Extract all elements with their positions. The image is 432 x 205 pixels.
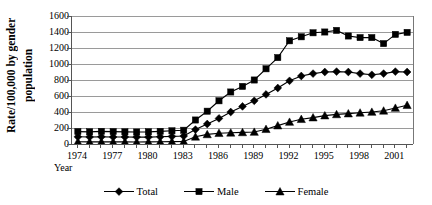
plot-right-border bbox=[413, 16, 414, 144]
x-axis-tick-mark bbox=[183, 145, 184, 148]
data-point bbox=[345, 33, 351, 39]
data-point bbox=[297, 72, 305, 80]
y-axis-tick-label: 1200 bbox=[39, 43, 69, 53]
series-line bbox=[78, 30, 407, 132]
y-axis-tick-mark bbox=[67, 112, 71, 113]
x-axis-tick-label: 1977 bbox=[92, 150, 132, 161]
x-axis-tick-mark bbox=[230, 145, 231, 148]
series-canvas bbox=[72, 16, 413, 144]
data-point bbox=[109, 138, 117, 144]
legend-item-total[interactable]: Total bbox=[104, 186, 158, 197]
data-point bbox=[357, 35, 363, 41]
data-point bbox=[110, 129, 116, 135]
data-point bbox=[344, 68, 352, 76]
data-point bbox=[215, 115, 223, 123]
x-axis-tick-mark bbox=[289, 145, 290, 148]
diamond-marker-icon bbox=[104, 186, 134, 197]
x-axis-tick-mark bbox=[336, 145, 337, 148]
y-axis-tick-label: 1600 bbox=[39, 11, 69, 21]
legend-label: Male bbox=[217, 186, 239, 197]
data-point bbox=[310, 30, 316, 36]
x-axis-tick-label: 1986 bbox=[198, 150, 238, 161]
data-point bbox=[121, 138, 129, 144]
y-axis-tick-label: 800 bbox=[39, 75, 69, 85]
y-axis-tick-mark bbox=[67, 80, 71, 81]
y-axis-title-line-2: population bbox=[19, 0, 37, 150]
y-axis-tick-mark bbox=[67, 144, 71, 145]
legend-item-female[interactable]: Female bbox=[265, 186, 329, 197]
x-axis-tick-mark bbox=[136, 145, 137, 148]
legend-item-male[interactable]: Male bbox=[184, 186, 239, 197]
data-point bbox=[169, 128, 175, 134]
y-axis-tick-mark bbox=[67, 32, 71, 33]
data-point bbox=[228, 89, 234, 95]
y-axis-tick-label: 200 bbox=[39, 123, 69, 133]
data-point bbox=[75, 129, 81, 135]
data-point bbox=[391, 68, 399, 76]
data-point bbox=[321, 68, 329, 76]
x-axis-tick-label: 1983 bbox=[163, 150, 203, 161]
data-point bbox=[134, 129, 140, 135]
x-axis-tick-mark bbox=[77, 145, 78, 148]
data-point bbox=[322, 29, 328, 35]
x-axis-tick-label: 1989 bbox=[233, 150, 273, 161]
data-point bbox=[369, 35, 375, 41]
data-point bbox=[122, 129, 128, 135]
x-axis-tick-mark bbox=[253, 145, 254, 148]
x-axis-tick-mark bbox=[265, 145, 266, 148]
y-axis-tick-label: 0 bbox=[39, 139, 69, 149]
y-axis-tick-mark bbox=[67, 96, 71, 97]
data-point bbox=[144, 138, 152, 144]
legend-label: Total bbox=[137, 186, 158, 197]
data-point bbox=[250, 97, 258, 105]
x-axis-tick-mark bbox=[347, 145, 348, 148]
data-point bbox=[404, 29, 410, 35]
data-point bbox=[356, 70, 364, 78]
data-point bbox=[298, 34, 304, 40]
data-point bbox=[274, 84, 282, 92]
data-point bbox=[262, 91, 270, 99]
data-point bbox=[403, 68, 411, 76]
data-point bbox=[181, 127, 187, 133]
x-axis-tick-label: 1998 bbox=[339, 150, 379, 161]
data-point bbox=[275, 55, 281, 61]
y-axis-tick-mark bbox=[67, 128, 71, 129]
x-axis-tick-mark bbox=[147, 145, 148, 148]
y-axis-tick-mark bbox=[67, 48, 71, 49]
x-axis-tick-label: 1995 bbox=[304, 150, 344, 161]
data-point bbox=[216, 98, 222, 104]
x-axis-tick-label: 2001 bbox=[374, 150, 414, 161]
y-axis-tick-label: 400 bbox=[39, 107, 69, 117]
x-axis-title: Year bbox=[54, 162, 72, 173]
y-axis-tick-mark bbox=[67, 64, 71, 65]
data-point bbox=[98, 128, 104, 134]
x-axis-tick-mark bbox=[89, 145, 90, 148]
data-point bbox=[157, 128, 163, 134]
x-axis-tick-mark bbox=[312, 145, 313, 148]
x-axis-tick-mark bbox=[218, 145, 219, 148]
series-male bbox=[75, 27, 410, 135]
data-point bbox=[333, 27, 339, 33]
data-point bbox=[381, 41, 387, 47]
x-axis-tick-mark bbox=[383, 145, 384, 148]
x-axis-tick-mark bbox=[359, 145, 360, 148]
y-axis-tick-label: 600 bbox=[39, 91, 69, 101]
y-axis-title-line-1: Rate/100,000 by gender bbox=[2, 0, 20, 150]
x-axis-tick-mark bbox=[194, 145, 195, 148]
x-axis-tick-mark bbox=[206, 145, 207, 148]
data-point bbox=[203, 120, 211, 128]
x-axis-tick-mark bbox=[394, 145, 395, 148]
legend-label: Female bbox=[298, 186, 329, 197]
data-point bbox=[239, 103, 247, 111]
data-point bbox=[204, 108, 210, 114]
x-axis-tick-label: 1980 bbox=[127, 150, 167, 161]
x-axis-tick-mark bbox=[242, 145, 243, 148]
data-point bbox=[333, 68, 341, 76]
data-point bbox=[86, 138, 94, 144]
data-point bbox=[263, 66, 269, 72]
data-point bbox=[239, 83, 245, 89]
data-point bbox=[368, 71, 376, 79]
x-axis-tick-label: 1992 bbox=[269, 150, 309, 161]
data-point bbox=[156, 138, 164, 144]
x-axis-tick-mark bbox=[277, 145, 278, 148]
